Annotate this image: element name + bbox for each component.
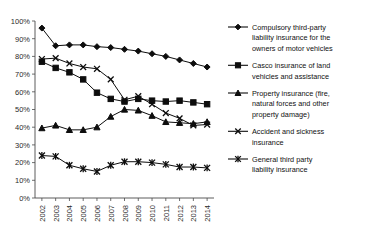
data-point-diamond [80, 42, 86, 48]
x-tick-label: 2003 [52, 205, 61, 222]
x-tick-label: 2008 [121, 205, 130, 222]
data-point-square [204, 101, 209, 106]
data-point-diamond [190, 60, 196, 66]
data-point-asterisk [66, 162, 72, 169]
y-tick-label: 0% [19, 194, 30, 203]
legend-label-line: Property insurance (fire, [252, 89, 330, 98]
data-point-diamond [204, 64, 210, 70]
legend-label-line: owners of motor vehicles [252, 44, 333, 53]
x-tick-label: 2002 [38, 205, 47, 222]
legend-label-line: natural forces and other [252, 99, 330, 108]
data-point-diamond [94, 44, 100, 50]
legend-label-line: Casco insurance of land [252, 61, 330, 70]
data-point-square [191, 100, 196, 105]
y-tick-label: 80% [15, 52, 30, 61]
legend-label-line: liability insurance for the [252, 33, 330, 42]
legend-item-2[interactable]: Property insurance (fire,natural forces … [228, 89, 330, 119]
y-tick-label: 40% [15, 123, 30, 132]
legend-label-line: liability insurance [252, 165, 308, 174]
y-tick-label: 10% [15, 176, 30, 185]
series-4 [39, 152, 210, 175]
y-tick-label: 70% [15, 70, 30, 79]
data-point-square [67, 70, 72, 75]
data-point-triangle [53, 122, 59, 128]
data-point-diamond [149, 51, 155, 57]
data-point-square [53, 65, 58, 70]
x-tick-label: 2013 [189, 205, 198, 222]
data-point-diamond [235, 24, 241, 30]
chart-legend: Compulsory third-partyliability insuranc… [228, 23, 333, 175]
legend-label-line: Compulsory third-party [252, 23, 326, 32]
y-tick-label: 20% [15, 158, 30, 167]
legend-label-line: Accident and sickness [252, 127, 325, 136]
legend-label-line: vehicles and assistance [252, 72, 329, 81]
data-point-diamond [135, 48, 141, 54]
legend-label-line: property damage) [252, 110, 310, 119]
line-chart: 0%10%20%30%40%50%60%70%80%90%100%2002200… [0, 0, 387, 245]
series-3 [39, 55, 210, 128]
data-point-diamond [163, 53, 169, 59]
data-point-x [67, 61, 73, 67]
x-tick-label: 2010 [148, 205, 157, 222]
y-tick-label: 60% [15, 88, 30, 97]
x-tick-label: 2011 [162, 205, 171, 221]
x-tick-label: 2005 [79, 205, 88, 222]
legend-item-1[interactable]: Casco insurance of landvehicles and assi… [228, 61, 330, 81]
x-tick-label: 2007 [107, 205, 116, 222]
data-point-diamond [66, 42, 72, 48]
data-point-diamond [177, 57, 183, 63]
data-point-square [80, 77, 85, 82]
legend-item-0[interactable]: Compulsory third-partyliability insuranc… [228, 23, 333, 53]
x-tick-label: 2006 [93, 205, 102, 222]
x-tick-label: 2014 [203, 205, 212, 222]
data-point-diamond [122, 46, 128, 52]
series-0 [39, 25, 210, 70]
data-point-x [108, 77, 114, 83]
data-point-square [177, 98, 182, 103]
x-tick-label: 2012 [176, 205, 185, 222]
legend-item-4[interactable]: General third partyliability insurance [228, 155, 313, 175]
series-2 [39, 106, 210, 132]
data-point-asterisk [108, 162, 114, 169]
y-tick-label: 50% [15, 105, 30, 114]
y-tick-label: 100% [11, 17, 31, 26]
legend-label-line: insurance [252, 138, 284, 147]
chart-canvas: 0%10%20%30%40%50%60%70%80%90%100%2002200… [0, 0, 387, 245]
data-point-square [94, 90, 99, 95]
legend-label-line: General third party [252, 155, 313, 164]
y-tick-label: 90% [15, 35, 30, 44]
x-tick-label: 2004 [65, 205, 74, 222]
data-point-triangle [149, 113, 155, 119]
x-tick-label: 2009 [134, 205, 143, 222]
data-point-square [108, 96, 113, 101]
data-point-diamond [108, 45, 114, 51]
data-point-square [235, 63, 240, 68]
legend-item-3[interactable]: Accident and sicknessinsurance [228, 127, 325, 147]
data-point-square [163, 99, 168, 104]
data-point-triangle [108, 113, 114, 119]
y-tick-label: 30% [15, 141, 30, 150]
data-point-x [163, 110, 169, 116]
